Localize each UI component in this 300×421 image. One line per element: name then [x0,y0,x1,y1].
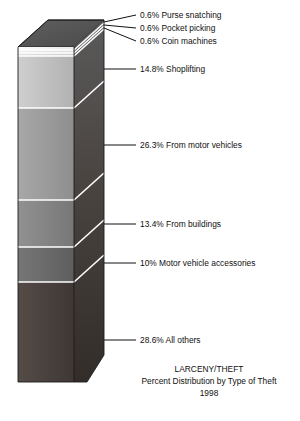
larceny-theft-stacked-bar-chart: 0.6% Purse snatching 0.6% Pocket picking… [0,0,300,421]
leader-pocket-picking [104,25,136,28]
label-purse-snatching: 0.6% Purse snatching [140,10,222,20]
chart-caption: LARCENY/THEFT Percent Distribution by Ty… [141,364,277,398]
caption-year: 1998 [200,388,219,398]
label-accessories: 10% Motor vehicle accessories [140,258,255,268]
leader-purse-snatching [104,15,136,22]
leader-coin-machines [104,28,136,41]
label-coin-machines: 0.6% Coin machines [140,36,217,46]
label-all-others: 28.6% All others [140,335,201,345]
label-pocket-picking: 0.6% Pocket picking [140,23,216,33]
segment-front-motor-vehicles [18,108,74,200]
callout-leader-lines [104,15,136,340]
segment-front-accessories [18,247,74,282]
stacked-bar-3d [18,20,104,382]
label-motor-vehicles: 26.3% From motor vehicles [140,140,242,150]
label-buildings: 13.4% From buildings [140,219,221,229]
bar-front-face [18,47,74,382]
label-shoplifting: 14.8% Shoplifting [140,64,206,74]
segment-front-buildings [18,200,74,247]
bar-side-face [74,20,104,382]
caption-title: LARCENY/THEFT [175,364,244,374]
side-face-body [74,20,104,382]
segment-front-all-others [18,282,74,382]
caption-subtitle: Percent Distribution by Type of Theft [141,376,277,386]
segment-front-shoplifting [18,56,74,108]
callout-labels: 0.6% Purse snatching 0.6% Pocket picking… [140,10,255,345]
